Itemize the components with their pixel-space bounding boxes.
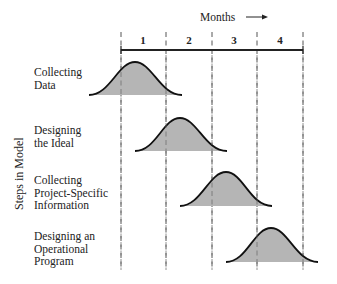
month-label-4: 4 (270, 34, 290, 46)
y-axis-title: Steps in Model (12, 137, 27, 210)
step-label-collecting-data: Collecting Data (34, 66, 82, 91)
month-label-2: 2 (179, 34, 199, 46)
curve-designing-ideal (135, 118, 227, 151)
month-label-3: 3 (224, 34, 244, 46)
month-label-1: 1 (133, 34, 153, 46)
curve-designing-operational (226, 228, 318, 262)
step-label-designing-operational: Designing an Operational Program (34, 230, 95, 268)
curve-collecting-data (89, 62, 182, 95)
arrow-right-icon (246, 15, 268, 20)
step-label-collecting-project-info: Collecting Project-Specific Information (34, 174, 108, 212)
step-label-designing-ideal: Designing the Ideal (34, 124, 81, 149)
curve-collecting-project-info (180, 172, 272, 206)
x-axis-title: Months (200, 11, 235, 23)
